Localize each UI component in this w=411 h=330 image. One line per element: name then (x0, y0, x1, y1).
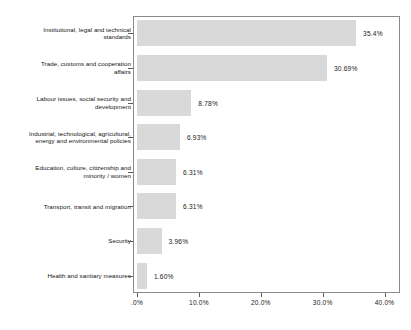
bar (137, 159, 176, 185)
category-label-line: Industrial, technological, agricultural, (3, 130, 131, 138)
category-label-line: Education, culture, citizenship and (3, 164, 131, 172)
category-label-line: Labour issues, social security and (3, 95, 131, 103)
category-label-line: standards (3, 33, 131, 41)
bar (137, 90, 191, 116)
bar-value-label: 3.96% (169, 238, 189, 245)
bar-value-label: 1.60% (154, 272, 174, 279)
category-label: Labour issues, social security anddevelo… (0, 95, 131, 110)
bar-value-label: 8.78% (198, 99, 218, 106)
bar (137, 228, 162, 254)
category-label-line: energy and environmental policies (3, 137, 131, 145)
x-axis-tick (323, 293, 324, 297)
bar (137, 55, 327, 81)
bar-value-label: 6.93% (187, 134, 207, 141)
bar (137, 20, 356, 46)
x-axis-tick-label: 40.0% (375, 299, 395, 306)
bar-row: 8.78% (133, 90, 400, 116)
bar (137, 193, 176, 219)
bar-row: 6.31% (133, 193, 400, 219)
x-axis-tick (137, 293, 138, 297)
bar-row: 6.93% (133, 124, 400, 150)
bar-value-label: 6.31% (183, 203, 203, 210)
category-label-line: minority / women (3, 172, 131, 180)
x-axis-tick-label: 10.0% (189, 299, 209, 306)
x-axis-tick (261, 293, 262, 297)
x-axis-tick-label: 30.0% (313, 299, 333, 306)
category-axis: Institutional, legal and technicalstanda… (0, 16, 131, 293)
chart-title (0, 0, 411, 2)
bar-value-label: 6.31% (183, 168, 203, 175)
category-label: Education, culture, citizenship andminor… (0, 164, 131, 179)
bar (137, 263, 147, 289)
x-axis: .0%10.0%20.0%30.0%40.0% (133, 293, 400, 323)
category-label-line: Institutional, legal and technical (3, 26, 131, 34)
category-label-line: Trade, customs and cooperation (3, 60, 131, 68)
category-label-line: Health and sanitary measures (3, 272, 131, 280)
bar-row: 6.31% (133, 159, 400, 185)
bar (137, 124, 180, 150)
category-label-line: development (3, 103, 131, 111)
bar-row: 3.96% (133, 228, 400, 254)
x-axis-tick-label: .0% (131, 299, 143, 306)
x-axis-tick (385, 293, 386, 297)
category-label: Trade, customs and cooperationaffairs (0, 60, 131, 75)
category-label-line: affairs (3, 68, 131, 76)
bars-container: 35.4%30.69%8.78%6.93%6.31%6.31%3.96%1.60… (133, 16, 400, 293)
category-label: Institutional, legal and technicalstanda… (0, 26, 131, 41)
category-label: Health and sanitary measures (0, 272, 131, 280)
bar-row: 1.60% (133, 263, 400, 289)
bar-chart: Institutional, legal and technicalstanda… (0, 0, 411, 330)
x-axis-tick (199, 293, 200, 297)
category-label: Transport, transit and migration (0, 203, 131, 211)
category-label: Industrial, technological, agricultural,… (0, 130, 131, 145)
bar-row: 30.69% (133, 55, 400, 81)
x-axis-tick-label: 20.0% (251, 299, 271, 306)
bar-value-label: 35.4% (363, 30, 383, 37)
category-label-line: Security (3, 237, 131, 245)
category-label: Security (0, 237, 131, 245)
bar-row: 35.4% (133, 20, 400, 46)
category-label-line: Transport, transit and migration (3, 203, 131, 211)
bar-value-label: 30.69% (334, 64, 358, 71)
